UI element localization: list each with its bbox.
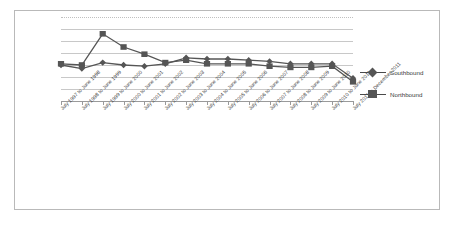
data-point-southbound	[120, 62, 126, 68]
southbound-marker-icon	[360, 66, 386, 78]
data-point-northbound	[287, 65, 293, 71]
data-point-northbound	[58, 61, 64, 67]
data-point-northbound	[204, 61, 210, 67]
data-point-northbound	[120, 44, 126, 50]
data-point-southbound	[141, 63, 147, 69]
data-point-northbound	[308, 65, 314, 71]
chart-legend: Southbound Northbound	[360, 61, 438, 105]
data-point-northbound	[266, 63, 272, 69]
data-point-northbound	[246, 61, 252, 67]
data-point-northbound	[100, 31, 106, 37]
data-point-northbound	[141, 51, 147, 57]
data-point-southbound	[100, 59, 106, 65]
data-point-northbound	[79, 62, 85, 68]
legend-label-northbound: Northbound	[386, 91, 422, 98]
legend-label-southbound: Southbound	[386, 69, 423, 76]
data-point-northbound	[162, 60, 168, 66]
chart-container: July 1997 to June 1998July 1998 to June …	[14, 10, 440, 210]
northbound-marker-icon	[360, 88, 386, 100]
data-point-northbound	[183, 57, 189, 63]
legend-item-southbound[interactable]: Southbound	[360, 61, 438, 83]
data-point-northbound	[225, 61, 231, 67]
data-point-northbound	[329, 63, 335, 69]
legend-item-northbound[interactable]: Northbound	[360, 83, 438, 105]
plot-wrapper: July 1997 to June 1998July 1998 to June …	[15, 11, 441, 211]
